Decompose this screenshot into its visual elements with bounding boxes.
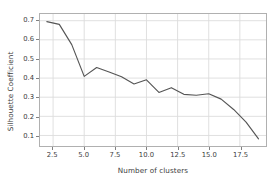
y-tick-label: 0.1: [0, 132, 34, 140]
y-tick-label: 0.6: [0, 35, 34, 43]
x-axis-label: Number of clusters: [39, 166, 267, 175]
plot-area: [39, 13, 267, 147]
x-tick-mark: [209, 147, 210, 150]
x-tick-mark: [178, 147, 179, 150]
y-axis-label: Silhouette Coefficient: [3, 0, 17, 183]
x-tick-label: 12.5: [170, 151, 185, 159]
y-tick-label: 0.7: [0, 16, 34, 24]
y-tick-label: 0.2: [0, 113, 34, 121]
y-tick-mark: [36, 78, 39, 79]
y-tick-label: 0.4: [0, 74, 34, 82]
x-tick-mark: [115, 147, 116, 150]
silhouette-line: [47, 22, 259, 139]
x-tick-mark: [146, 147, 147, 150]
x-tick-mark: [52, 147, 53, 150]
y-tick-mark: [36, 97, 39, 98]
x-tick-mark: [84, 147, 85, 150]
horizontal-gridlines: [40, 21, 266, 136]
y-tick-mark: [36, 117, 39, 118]
y-tick-label: 0.3: [0, 93, 34, 101]
x-tick-label: 2.5: [47, 151, 58, 159]
y-tick-label: 0.5: [0, 55, 34, 63]
y-tick-mark: [36, 20, 39, 21]
silhouette-coefficient-chart: Silhouette Coefficient 2.55.07.510.012.5…: [0, 0, 273, 183]
x-tick-label: 5.0: [78, 151, 89, 159]
x-tick-label: 7.5: [110, 151, 121, 159]
x-tick-mark: [241, 147, 242, 150]
x-tick-label: 15.0: [202, 151, 217, 159]
y-tick-mark: [36, 136, 39, 137]
y-tick-mark: [36, 59, 39, 60]
y-tick-mark: [36, 39, 39, 40]
x-tick-label: 17.5: [233, 151, 248, 159]
line-series-svg: [40, 14, 266, 146]
x-tick-label: 10.0: [139, 151, 154, 159]
